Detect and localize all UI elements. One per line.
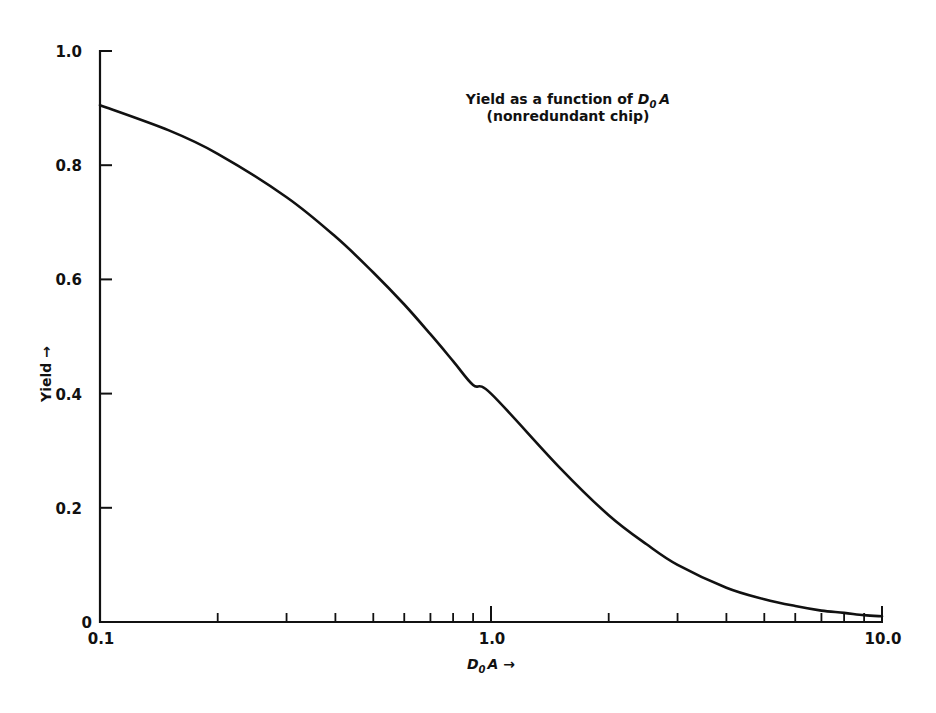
- y-tick-label: 0.4: [55, 386, 82, 404]
- x-title-arrow: →: [503, 656, 515, 672]
- title-var-a: A: [658, 91, 670, 107]
- plot-area: 00.20.40.60.81.0 0.11.010.0: [55, 43, 901, 648]
- x-axis-title: D0A→: [467, 656, 515, 675]
- y-tick-label: 0.2: [55, 500, 82, 518]
- x-title-subscript: 0: [479, 664, 486, 675]
- title-prefix: Yield as a function of: [465, 91, 638, 107]
- title-var-subscript: 0: [649, 99, 656, 110]
- y-axis-ticks: 00.20.40.60.81.0: [55, 43, 112, 632]
- x-tick-label: 0.1: [88, 630, 115, 648]
- chart-subtitle: (nonredundant chip): [487, 108, 650, 124]
- y-tick-label: 0.6: [55, 271, 82, 289]
- yield-chart: 00.20.40.60.81.0 0.11.010.0 Yield as a f…: [0, 0, 936, 713]
- x-tick-label: 10.0: [864, 630, 901, 648]
- y-tick-label: 1.0: [55, 43, 82, 61]
- x-title-var-a: A: [487, 656, 499, 672]
- y-tick-label: 0.8: [55, 157, 82, 175]
- x-tick-label: 1.0: [479, 630, 506, 648]
- x-title-var-d: D: [467, 656, 479, 672]
- yield-curve: [100, 105, 882, 616]
- title-var-d: D: [638, 91, 650, 107]
- y-axis-title: Yield →: [38, 346, 54, 403]
- x-axis-ticks: 0.11.010.0: [88, 606, 902, 648]
- chart-title: Yield as a function of D0A (nonredundant…: [465, 91, 670, 124]
